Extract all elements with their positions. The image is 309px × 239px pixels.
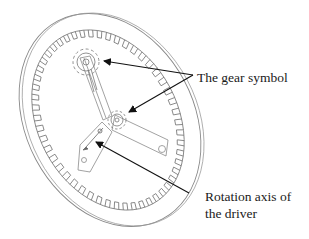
rotation-axis-label: Rotation axis of the driver	[205, 188, 291, 222]
arrow-to-upper-pinion	[104, 61, 193, 75]
rotation-axis-label-line2: the driver	[205, 205, 291, 222]
gear-symbol-label: The gear symbol	[197, 69, 288, 86]
outer-disk	[0, 0, 240, 239]
rotation-axis-label-line1: Rotation axis of	[205, 188, 291, 205]
center-pinion	[108, 111, 126, 129]
arrow-to-center-pinion	[129, 75, 193, 112]
carrier-arm	[78, 56, 168, 172]
